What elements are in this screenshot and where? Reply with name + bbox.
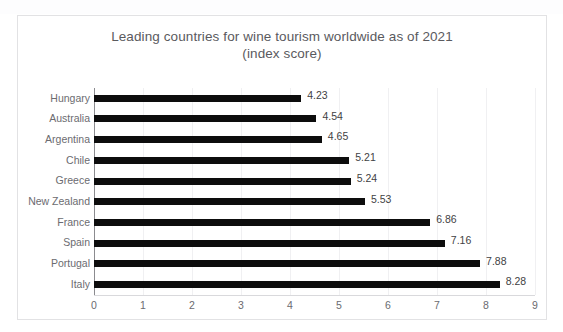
bar[interactable] [94,260,480,267]
category-label: Italy [4,278,90,290]
axis-baseline [94,295,535,296]
bar-value-label: 4.65 [328,130,348,142]
x-tick-label: 4 [287,299,293,311]
category-axis: HungaryAustraliaArgentinaChileGreeceNew … [2,88,90,295]
x-tick-label: 5 [336,299,342,311]
chart-title-line1: Leading countries for wine tourism world… [111,29,453,44]
x-tick-label: 1 [140,299,146,311]
category-label: New Zealand [4,195,90,207]
x-tick-label: 0 [91,299,97,311]
bar-value-label: 6.86 [436,213,456,225]
chart-figure: Leading countries for wine tourism world… [0,0,563,332]
bar-value-label: 8.28 [506,275,526,287]
category-label: Argentina [4,133,90,145]
x-tick-label: 7 [434,299,440,311]
x-tick-label: 2 [189,299,195,311]
image-artifact-strip [0,0,563,14]
x-tick-label: 8 [483,299,489,311]
bar[interactable] [94,240,445,247]
bar-value-label: 7.88 [486,255,506,267]
category-label: Greece [4,174,90,186]
bar-row[interactable]: 7.16 [94,233,535,254]
bar-value-label: 5.53 [371,193,391,205]
category-label: France [4,216,90,228]
chart-title-line2: (index score) [17,45,547,62]
x-tick-label: 3 [238,299,244,311]
bar-value-label: 4.54 [322,110,342,122]
bar-row[interactable]: 5.21 [94,150,535,171]
bar-row[interactable]: 7.88 [94,254,535,275]
bar-row[interactable]: 4.54 [94,109,535,130]
bar[interactable] [94,157,349,164]
category-label: Portugal [4,257,90,269]
chart-title: Leading countries for wine tourism world… [17,28,547,62]
bar-row[interactable]: 6.86 [94,212,535,233]
category-label: Chile [4,154,90,166]
bar[interactable] [94,178,351,185]
plot-area: 4.234.544.655.215.245.536.867.167.888.28 [94,88,535,295]
bar-row[interactable]: 8.28 [94,274,535,295]
bar[interactable] [94,136,322,143]
x-axis-tick-labels: 0123456789 [94,299,535,315]
gridline [535,88,536,295]
bar-row[interactable]: 4.23 [94,88,535,109]
x-tick-label: 6 [385,299,391,311]
bar-value-label: 4.23 [307,89,327,101]
bar[interactable] [94,115,316,122]
bar-row[interactable]: 4.65 [94,129,535,150]
category-label: Hungary [4,92,90,104]
bar[interactable] [94,198,365,205]
category-label: Spain [4,236,90,248]
x-tick-label: 9 [532,299,538,311]
bar-row[interactable]: 5.24 [94,171,535,192]
bar-value-label: 7.16 [451,234,471,246]
bar-value-label: 5.24 [357,172,377,184]
bar-value-label: 5.21 [355,151,375,163]
bar-row[interactable]: 5.53 [94,192,535,213]
category-label: Australia [4,112,90,124]
bar[interactable] [94,95,301,102]
bar[interactable] [94,219,430,226]
bar[interactable] [94,281,500,288]
